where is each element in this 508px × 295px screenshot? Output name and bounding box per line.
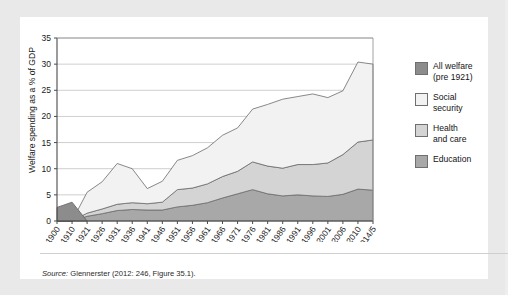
legend-swatch-health-and-care-icon [415,124,428,137]
legend-item-education[interactable]: Education [415,154,507,168]
legend-label-all-welfare: All welfare (pre 1921) [433,61,473,82]
legend-item-health-and-care[interactable]: Health and care [415,123,507,144]
legend-swatch-education-icon [415,155,428,168]
y-tick-label: 15 [42,138,52,148]
figure-divider [40,253,508,254]
y-tick-label: 20 [42,111,52,121]
y-tick-label: 10 [42,164,52,174]
y-tick-label: 30 [42,59,52,69]
legend-item-all-welfare[interactable]: All welfare (pre 1921) [415,61,507,82]
y-tick-label: 5 [46,190,51,200]
legend-item-social-security[interactable]: Social security [415,92,507,113]
chart-legend: All welfare (pre 1921) Social security H… [415,61,507,178]
figure-plate: 0510152025303519001910192119261931193619… [20,17,488,279]
y-tick-label: 0 [46,216,51,226]
y-axis-label: Welfare spending as a % of GDP [27,35,37,185]
legend-label-social-security: Social security [433,92,463,113]
legend-swatch-social-security-icon [415,93,428,106]
y-tick-label: 35 [42,33,52,43]
source-prefix: Source: [42,269,68,278]
source-text: Glennerster (2012: 246, Figure 35.1). [70,269,195,278]
legend-label-education: Education [433,154,471,165]
legend-label-health-and-care: Health and care [433,123,466,144]
legend-swatch-all-welfare-icon [415,62,428,75]
source-caption: Source: Glennerster (2012: 246, Figure 3… [42,269,196,278]
y-tick-label: 25 [42,85,52,95]
